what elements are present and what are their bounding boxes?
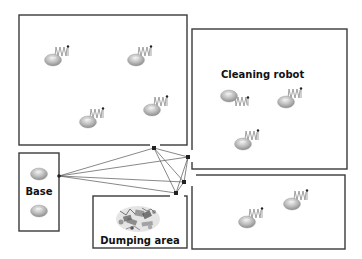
- robot-icon: [45, 45, 70, 66]
- debris-pile-icon: [116, 206, 160, 232]
- robot-icon: [278, 87, 303, 108]
- dumping-area-label: Dumping area: [100, 235, 179, 246]
- hub-right-mid: [182, 180, 186, 184]
- hub-top: [152, 146, 156, 150]
- robot-icon: [221, 90, 250, 106]
- cleaning-robot-label: Cleaning robot: [221, 69, 304, 80]
- cleaning-robot-diagram: Cleaning robot Base Dumping area: [0, 0, 362, 259]
- robot-icon: [235, 129, 260, 150]
- hub-base: [57, 174, 61, 178]
- robot-icon: [80, 107, 105, 128]
- docked-robot-icon: [31, 205, 48, 217]
- robot-icon: [144, 95, 169, 116]
- network-links: [59, 148, 188, 193]
- base-label: Base: [25, 186, 52, 197]
- hub-right-top: [186, 155, 190, 159]
- robot-icon: [239, 207, 264, 228]
- zone-top-left: [19, 15, 187, 145]
- zone-bottom-right: [192, 175, 345, 249]
- zone-right: [192, 29, 347, 169]
- docked-robot-icon: [31, 168, 48, 180]
- robot-icon: [128, 45, 153, 66]
- robot-icon: [284, 189, 309, 210]
- hub-bottom: [174, 191, 178, 195]
